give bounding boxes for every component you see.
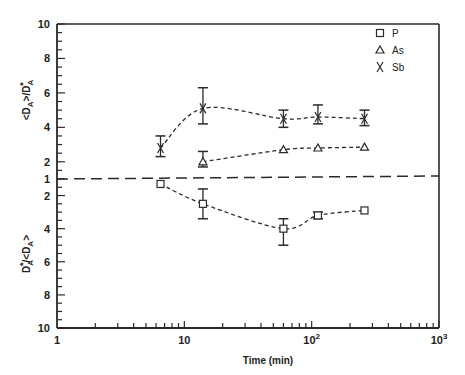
legend-marker-sb [377,62,383,72]
reference-line-one [57,176,439,179]
legend-marker-as [376,46,384,53]
y-tick-label-upper: 6 [44,87,50,99]
point-p [361,207,368,214]
x-axis-title: Time (min) [243,355,293,366]
y-axis-title-upper-part: <D [21,107,32,120]
y-tick-label-upper: 4 [44,121,51,133]
y-tick-label-lower: 8 [44,289,50,301]
data-marks [156,88,370,246]
x-tick-label: 103 [431,332,448,346]
y-tick-label-lower: 10 [38,322,50,334]
x-tick-label: 102 [303,332,320,346]
legend-marker-sb-stroke [377,62,383,72]
y-tick-label-upper: 8 [44,52,50,64]
series-curves [161,107,365,229]
x-tick-exponent: 3 [443,332,448,341]
error-bar-sb [156,136,166,157]
tick-labels: 2468102468101110102103 [38,18,448,346]
legend-label-as: As [392,45,404,56]
point-as [361,143,369,150]
point-p [314,212,321,219]
legend: PAsSb [376,28,405,73]
y-axis-title-upper-part: * [18,82,28,86]
y-tick-label-upper: 2 [44,156,50,168]
curve-sb [161,107,365,148]
y-axis-title-upper: <DA>/DA* [18,80,35,121]
point-p [157,180,164,187]
reference-line [57,176,439,179]
y-tick-label-lower: 4 [44,223,51,235]
x-tick-label: 10 [178,334,190,346]
y-tick-label-upper: 10 [38,18,50,30]
y-axis-title-lower-part: > [21,235,32,241]
point-p [280,225,287,232]
error-bar-sb [313,105,323,124]
y-axis-title-lower-part: /<D [21,247,32,263]
curve-p [161,184,365,229]
error-bar-sb [198,88,208,124]
y-axis-title-lower: DA*/<DA> [18,235,35,273]
legend-marker-p [377,30,384,37]
chart: 2468102468101110102103 PAsSb Time (min)<… [0,0,465,375]
y-axis-title-upper-part: >/D [21,86,32,102]
x-tick-exponent: 2 [316,332,321,341]
x-tick-label: 1 [54,334,60,346]
y-tick-label-lower: 6 [44,256,50,268]
point-p [199,200,206,207]
legend-label-p: P [392,28,399,39]
y-tick-label-center: 1 [44,173,50,185]
y-tick-label-lower: 2 [44,190,50,202]
legend-label-sb: Sb [392,62,405,73]
